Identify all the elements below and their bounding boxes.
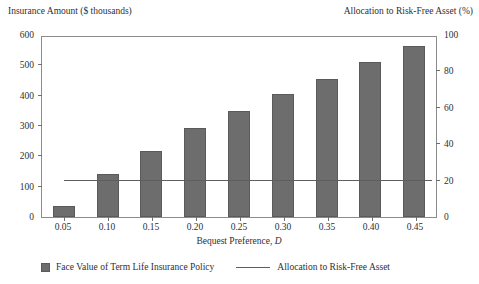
y-tick-label-right: 100: [444, 30, 458, 40]
x-tick-label-0.05: 0.05: [55, 222, 72, 232]
y-tick-right: [436, 70, 440, 71]
bar-0.45[interactable]: [403, 46, 425, 217]
x-tick: [372, 217, 373, 221]
legend-line-icon: [236, 267, 270, 268]
bar-slot: [86, 37, 130, 217]
x-tick: [64, 217, 65, 221]
x-tick-label-0.25: 0.25: [231, 222, 248, 232]
x-tick-label-0.20: 0.20: [187, 222, 204, 232]
x-tick-label-0.40: 0.40: [363, 222, 380, 232]
legend-swatch-icon: [41, 263, 50, 272]
x-tick: [328, 217, 329, 221]
bar-0.25[interactable]: [228, 111, 250, 217]
x-axis-title-text: Bequest Preference,: [196, 236, 272, 246]
y-tick-left: [38, 64, 42, 65]
x-axis-title-variable: D: [275, 236, 282, 246]
y-tick-right: [436, 180, 440, 181]
right-axis-caption: Allocation to Risk-Free Asset (%): [344, 6, 473, 16]
bar-0.15[interactable]: [140, 151, 162, 217]
y-tick-left: [38, 155, 42, 156]
y-tick-label-left: 0: [29, 212, 34, 222]
x-tick-label-0.35: 0.35: [319, 222, 336, 232]
y-tick-label-right: 40: [444, 139, 454, 149]
bar-slot: [261, 37, 305, 217]
x-tick-label-0.15: 0.15: [143, 222, 160, 232]
y-tick-left: [38, 186, 42, 187]
y-tick-right: [436, 107, 440, 108]
bars-layer: [42, 37, 436, 217]
bar-0.20[interactable]: [184, 128, 206, 217]
x-tick: [240, 217, 241, 221]
bar-slot: [130, 37, 174, 217]
y-tick-label-right: 20: [444, 176, 454, 186]
y-tick-label-right: 60: [444, 103, 454, 113]
bar-slot: [348, 37, 392, 217]
y-tick-right: [436, 143, 440, 144]
legend-label-line: Allocation to Risk-Free Asset: [277, 262, 390, 272]
x-tick: [196, 217, 197, 221]
legend-entry-line: Allocation to Risk-Free Asset: [236, 262, 390, 272]
bar-slot: [173, 37, 217, 217]
bar-slot: [42, 37, 86, 217]
x-tick-label-0.45: 0.45: [407, 222, 424, 232]
plot-area: [41, 36, 437, 218]
bar-slot: [305, 37, 349, 217]
bar-0.05[interactable]: [53, 206, 75, 217]
y-tick-label-left: 400: [20, 91, 34, 101]
y-tick-left: [38, 95, 42, 96]
y-tick-label-right: 0: [444, 212, 449, 222]
x-tick-label-0.10: 0.10: [99, 222, 116, 232]
y-tick-label-right: 80: [444, 66, 454, 76]
legend-entry-bars: Face Value of Term Life Insurance Policy: [41, 262, 214, 272]
x-tick: [152, 217, 153, 221]
bar-slot: [217, 37, 261, 217]
risk-free-allocation-line: [64, 180, 432, 181]
x-tick: [284, 217, 285, 221]
x-axis-title: Bequest Preference, D: [41, 236, 437, 246]
y-tick-left: [38, 125, 42, 126]
bar-0.40[interactable]: [359, 62, 381, 217]
x-tick: [108, 217, 109, 221]
y-tick-label-left: 100: [20, 182, 34, 192]
y-tick-label-left: 500: [20, 60, 34, 70]
y-tick-label-left: 200: [20, 151, 34, 161]
chart-legend: Face Value of Term Life Insurance Policy…: [41, 262, 461, 272]
legend-label-bars: Face Value of Term Life Insurance Policy: [56, 262, 214, 272]
y-tick-label-left: 300: [20, 121, 34, 131]
x-tick: [416, 217, 417, 221]
bar-0.35[interactable]: [316, 79, 338, 217]
x-tick-label-0.30: 0.30: [275, 222, 292, 232]
left-axis-caption: Insurance Amount ($ thousands): [8, 6, 132, 16]
bar-slot: [392, 37, 436, 217]
y-tick-label-left: 600: [20, 30, 34, 40]
bar-0.30[interactable]: [272, 94, 294, 217]
